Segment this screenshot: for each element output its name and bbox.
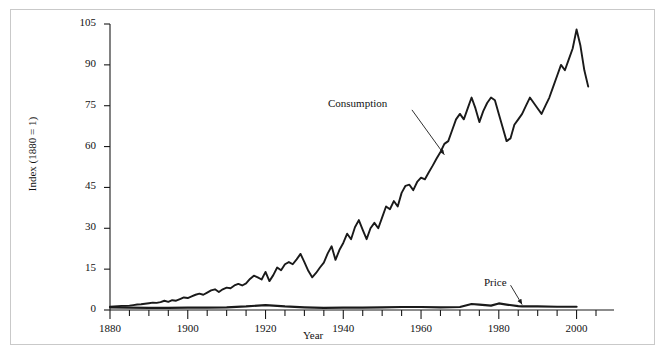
y-tick-label: 60: [62, 139, 96, 151]
annotation-arrow-price: [511, 285, 523, 304]
y-tick-label: 15: [62, 261, 96, 273]
series-group: [110, 29, 588, 307]
x-tick-label: 1940: [320, 322, 366, 334]
annotation-arrow-consumption: [412, 110, 444, 155]
series-line-price: [110, 303, 577, 307]
x-tick-label: 2000: [554, 322, 600, 334]
y-tick-label: 105: [62, 16, 96, 28]
x-tick-label: 1920: [243, 322, 289, 334]
y-tick-label: 0: [62, 302, 96, 314]
y-axis-label: Index (1880 = 1): [26, 94, 38, 214]
y-tick-label: 90: [62, 57, 96, 69]
y-tick-label: 75: [62, 98, 96, 110]
axes-group: [104, 24, 614, 319]
series-line-consumption: [110, 29, 588, 306]
x-tick-label: 1980: [476, 322, 522, 334]
annotation-consumption: Consumption: [328, 97, 387, 109]
x-tick-label: 1880: [87, 322, 133, 334]
x-tick-label: 1900: [165, 322, 211, 334]
annotation-price: Price: [484, 276, 507, 288]
y-tick-label: 30: [62, 220, 96, 232]
y-tick-label: 45: [62, 179, 96, 191]
figure-container: Index (1880 = 1) Year Consumption Price …: [0, 0, 666, 354]
chart-plot-area: [0, 0, 666, 354]
x-tick-label: 1960: [398, 322, 444, 334]
